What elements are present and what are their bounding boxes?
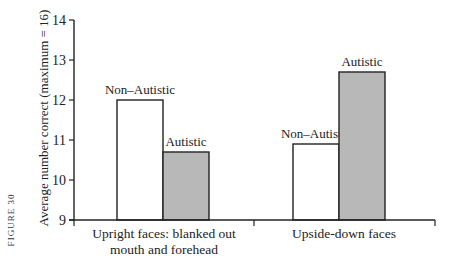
y-axis-label: Average number correct (maximum = 16) bbox=[36, 10, 51, 227]
bar-non-autistic-2 bbox=[293, 144, 339, 220]
bar-label: Non–Autistic bbox=[105, 82, 175, 97]
x-category-label: Upright faces: blanked out bbox=[92, 226, 236, 241]
bar-label: Autistic bbox=[341, 54, 382, 69]
y-tick-label: 14 bbox=[52, 13, 66, 28]
bar-autistic-2 bbox=[339, 72, 385, 220]
bar-chart: Non–AutisticAutisticNon–AutisticAutistic… bbox=[0, 0, 458, 268]
y-tick-label: 13 bbox=[52, 53, 66, 68]
x-category-label: Upside-down faces bbox=[292, 226, 396, 241]
figure-label: FIGURE 30 bbox=[6, 194, 16, 247]
y-tick-label: 12 bbox=[52, 93, 66, 108]
bar-label: Autistic bbox=[165, 134, 206, 149]
y-tick-label: 10 bbox=[52, 173, 66, 188]
bar-non-autistic-1 bbox=[117, 100, 163, 220]
y-tick-label: 11 bbox=[53, 133, 66, 148]
bar-autistic-1 bbox=[163, 152, 209, 220]
bars-group: Non–AutisticAutisticNon–AutisticAutistic bbox=[105, 54, 385, 220]
x-category-label: mouth and forehead bbox=[110, 242, 218, 257]
y-tick-label: 9 bbox=[59, 213, 66, 228]
